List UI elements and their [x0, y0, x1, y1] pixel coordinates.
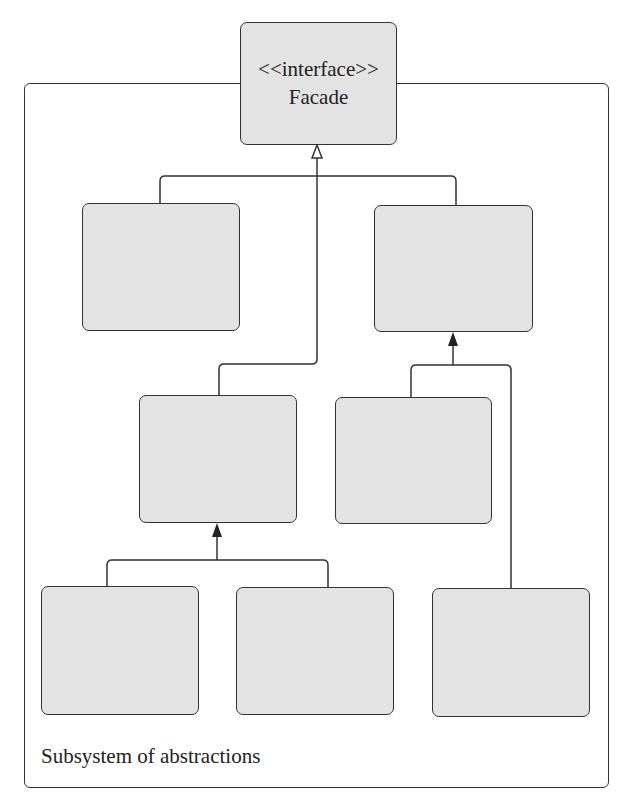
class-box-6[interactable] — [236, 587, 394, 715]
class-box-4[interactable] — [335, 397, 492, 524]
class-box-3[interactable] — [139, 395, 297, 523]
class-box-5[interactable] — [41, 586, 199, 715]
connector-box1-box2-to-facade — [160, 176, 456, 206]
facade-interface-box[interactable]: <<interface>> Facade — [240, 22, 397, 145]
class-box-1[interactable] — [82, 203, 240, 331]
diagram-canvas: <<interface>> Facade Subsystem of abstra… — [0, 0, 633, 811]
connector-box5-box6-to-box3 — [107, 560, 328, 587]
class-box-2[interactable] — [374, 205, 533, 332]
facade-stereotype: <<interface>> — [258, 56, 379, 83]
facade-name: Facade — [289, 84, 348, 111]
filled-arrow-icon — [448, 332, 458, 346]
subsystem-label: Subsystem of abstractions — [41, 744, 260, 769]
filled-arrow-icon — [212, 523, 222, 537]
generalization-arrow-icon — [312, 145, 322, 158]
class-box-7[interactable] — [432, 588, 590, 717]
